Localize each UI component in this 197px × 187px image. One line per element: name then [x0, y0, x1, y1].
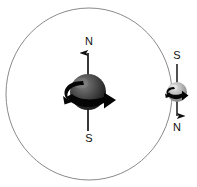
magnetic-orbit-diagram: N S S N: [0, 0, 197, 187]
large-north-label: N: [85, 35, 93, 47]
large-south-label: S: [85, 132, 92, 144]
small-north-label: N: [173, 121, 181, 133]
diagram-canvas: N S S N: [0, 0, 197, 187]
small-south-label: S: [173, 49, 180, 61]
large-body-group: N S: [63, 35, 116, 144]
